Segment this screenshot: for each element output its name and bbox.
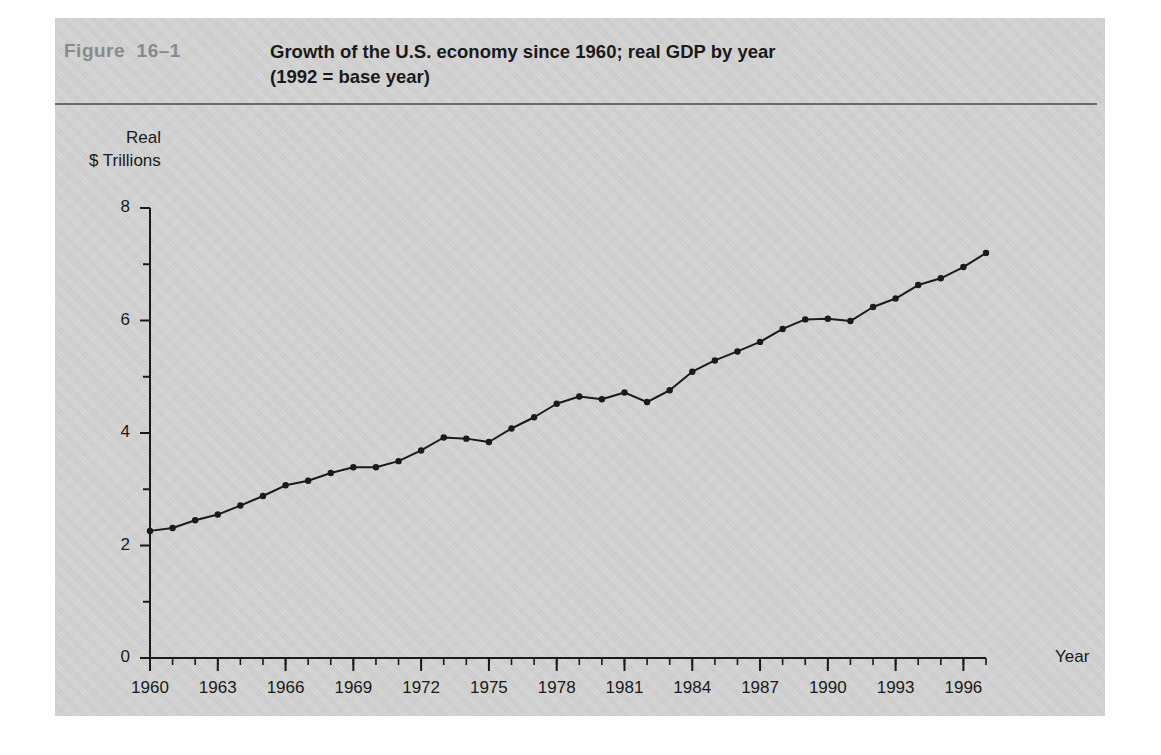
data-point-marker — [802, 316, 808, 322]
figure-panel: Figure 16–1 Growth of the U.S. economy s… — [55, 18, 1105, 716]
data-point-marker — [169, 525, 175, 531]
data-point-marker — [192, 517, 198, 523]
data-point-marker — [373, 464, 379, 470]
data-point-marker — [554, 401, 560, 407]
gdp-line-series — [150, 253, 986, 531]
figure-root: Figure 16–1 Growth of the U.S. economy s… — [0, 0, 1161, 755]
x-axis-minor-ticks — [150, 658, 986, 665]
data-point-marker — [689, 368, 695, 374]
data-point-marker — [825, 316, 831, 322]
data-point-marker — [486, 439, 492, 445]
data-point-marker — [983, 250, 989, 256]
data-point-marker — [350, 464, 356, 470]
data-point-marker — [757, 339, 763, 345]
plot-area: Real $ Trillions Year 024681960196319661… — [55, 18, 1105, 716]
data-point-marker — [666, 387, 672, 393]
data-point-marker — [599, 396, 605, 402]
data-point-marker — [282, 482, 288, 488]
data-point-marker — [847, 318, 853, 324]
data-point-marker — [734, 348, 740, 354]
data-point-marker — [395, 458, 401, 464]
chart-canvas — [55, 18, 1105, 716]
data-point-marker — [305, 478, 311, 484]
data-point-marker — [712, 357, 718, 363]
data-point-marker — [441, 434, 447, 440]
data-point-marker — [531, 414, 537, 420]
data-point-marker — [418, 447, 424, 453]
data-point-marker — [870, 304, 876, 310]
data-point-marker — [960, 264, 966, 270]
data-point-marker — [576, 393, 582, 399]
data-point-marker — [147, 528, 153, 534]
data-point-marker — [237, 502, 243, 508]
data-point-marker — [260, 493, 266, 499]
data-point-marker — [779, 326, 785, 332]
data-point-marker — [621, 389, 627, 395]
data-point-marker — [644, 399, 650, 405]
data-point-marker — [915, 282, 921, 288]
y-axis-major-ticks — [140, 208, 150, 658]
data-point-marker — [215, 511, 221, 517]
data-point-marker — [892, 295, 898, 301]
data-point-marker — [463, 435, 469, 441]
data-point-marker — [508, 425, 514, 431]
data-point-marker — [328, 470, 334, 476]
axis-lines — [150, 208, 986, 658]
data-point-marker — [938, 275, 944, 281]
